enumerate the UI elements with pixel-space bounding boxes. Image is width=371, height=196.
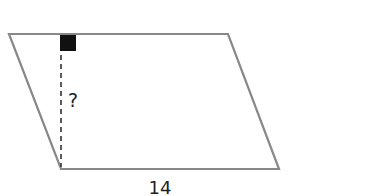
base-label: 14 [149, 177, 172, 196]
parallelogram-outline [9, 34, 279, 169]
height-label: ? [68, 89, 78, 111]
parallelogram-diagram: ? 14 [0, 0, 371, 196]
right-angle-marker [60, 35, 76, 51]
